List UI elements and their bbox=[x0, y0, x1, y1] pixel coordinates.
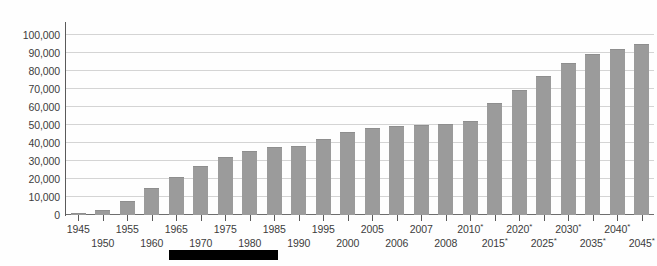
y-tick-label: 50,000 bbox=[28, 119, 60, 131]
x-axis-tick bbox=[127, 215, 128, 221]
bar bbox=[585, 54, 600, 215]
x-axis-tick bbox=[568, 215, 569, 221]
x-axis-tick bbox=[225, 215, 226, 221]
x-axis-tick bbox=[274, 215, 275, 221]
bar bbox=[242, 151, 257, 215]
x-tick-label: 1985 bbox=[263, 223, 286, 235]
x-tick-label: 2006 bbox=[385, 237, 408, 249]
y-tick-label: 80,000 bbox=[28, 65, 60, 77]
x-axis-tick bbox=[519, 215, 520, 221]
x-tick-label: 1995 bbox=[312, 223, 335, 235]
bar bbox=[365, 128, 380, 215]
y-tick-label: 70,000 bbox=[28, 83, 60, 95]
x-axis-tick bbox=[446, 215, 447, 221]
redaction-block bbox=[169, 250, 278, 260]
x-tick-label: 1945 bbox=[67, 223, 90, 235]
x-tick-label: 1975 bbox=[214, 223, 237, 235]
x-axis-tick bbox=[397, 215, 398, 221]
bar bbox=[634, 44, 649, 215]
x-tick-label: 2005 bbox=[361, 223, 384, 235]
x-tick-label: 2020* bbox=[506, 223, 532, 235]
x-tick-label: 2007 bbox=[410, 223, 433, 235]
x-axis-tick bbox=[544, 215, 545, 221]
y-tick-label: 100,000 bbox=[23, 29, 60, 41]
bar-series bbox=[66, 26, 654, 215]
y-axis-labels: 010,00020,00030,00040,00050,00060,00070,… bbox=[0, 26, 60, 215]
x-tick-label: 2030* bbox=[555, 223, 581, 235]
x-axis-tick bbox=[593, 215, 594, 221]
bar bbox=[463, 121, 478, 216]
x-axis-tick bbox=[299, 215, 300, 221]
bar bbox=[169, 177, 184, 215]
x-axis: 1945195019551960196519701975198019851990… bbox=[66, 215, 654, 263]
x-axis-tick bbox=[78, 215, 79, 221]
y-tick-label: 30,000 bbox=[28, 155, 60, 167]
x-tick-label: 2035* bbox=[580, 237, 606, 249]
bar bbox=[487, 103, 502, 215]
bar bbox=[267, 147, 282, 215]
x-axis-tick bbox=[470, 215, 471, 221]
x-tick-label: 1960 bbox=[140, 237, 163, 249]
x-tick-label: 2008 bbox=[434, 237, 457, 249]
bar bbox=[536, 76, 551, 216]
y-tick-label: 40,000 bbox=[28, 137, 60, 149]
x-axis-tick bbox=[348, 215, 349, 221]
x-axis-tick bbox=[201, 215, 202, 221]
y-tick-label: 60,000 bbox=[28, 101, 60, 113]
x-tick-label: 1950 bbox=[91, 237, 114, 249]
bar bbox=[438, 124, 453, 215]
x-tick-label: 2000 bbox=[336, 237, 359, 249]
x-axis-tick bbox=[103, 215, 104, 221]
x-axis-tick bbox=[152, 215, 153, 221]
bar bbox=[610, 49, 625, 216]
plot-area bbox=[66, 26, 654, 215]
y-tick-label: 0 bbox=[54, 209, 60, 221]
x-tick-label: 2010* bbox=[457, 223, 483, 235]
x-axis-tick bbox=[372, 215, 373, 221]
x-tick-label: 1955 bbox=[116, 223, 139, 235]
x-axis-tick bbox=[176, 215, 177, 221]
x-tick-label: 2040* bbox=[604, 223, 630, 235]
bar bbox=[144, 188, 159, 215]
bar bbox=[120, 201, 135, 215]
y-tick-label: 90,000 bbox=[28, 47, 60, 59]
bar bbox=[414, 125, 429, 215]
x-tick-label: 2025* bbox=[531, 237, 557, 249]
x-axis-tick bbox=[250, 215, 251, 221]
x-tick-label: 2015* bbox=[482, 237, 508, 249]
bar bbox=[340, 132, 355, 215]
bar-chart: 010,00020,00030,00040,00050,00060,00070,… bbox=[0, 0, 657, 266]
bar bbox=[316, 139, 331, 216]
x-axis-tick bbox=[421, 215, 422, 221]
x-tick-label: 1990 bbox=[287, 237, 310, 249]
x-axis-tick bbox=[617, 215, 618, 221]
x-axis-tick bbox=[642, 215, 643, 221]
y-tick-label: 20,000 bbox=[28, 173, 60, 185]
x-tick-label: 2045* bbox=[629, 237, 655, 249]
bar bbox=[512, 90, 527, 215]
x-tick-label: 1980 bbox=[238, 237, 261, 249]
x-tick-label: 1965 bbox=[165, 223, 188, 235]
x-tick-label: 1970 bbox=[189, 237, 212, 249]
bar bbox=[218, 157, 233, 215]
x-axis-tick bbox=[495, 215, 496, 221]
bar bbox=[561, 63, 576, 215]
y-tick-label: 10,000 bbox=[28, 191, 60, 203]
bar bbox=[291, 146, 306, 215]
bar bbox=[193, 166, 208, 215]
x-axis-tick bbox=[323, 215, 324, 221]
bar bbox=[389, 126, 404, 215]
